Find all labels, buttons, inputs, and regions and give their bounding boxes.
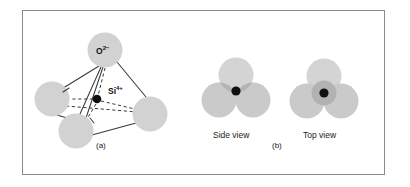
side-view-label: Side view <box>213 131 249 140</box>
panel-b-caption: (b) <box>272 142 282 150</box>
silicon-charge: 4+ <box>116 85 122 91</box>
oxygen-charge: 2− <box>103 45 109 51</box>
figure-root: O2− Si4+ (a) Side view Top view (b) <box>0 0 410 187</box>
oxygen-ion-label: O2− <box>96 45 109 55</box>
silicon-ion-label: Si4+ <box>108 85 122 95</box>
panel-a-caption: (a) <box>96 142 106 150</box>
silicon-symbol: Si <box>108 86 116 96</box>
oxygen-symbol: O <box>96 46 103 56</box>
top-view-label: Top view <box>303 131 336 140</box>
figure-border-frame <box>22 10 385 175</box>
